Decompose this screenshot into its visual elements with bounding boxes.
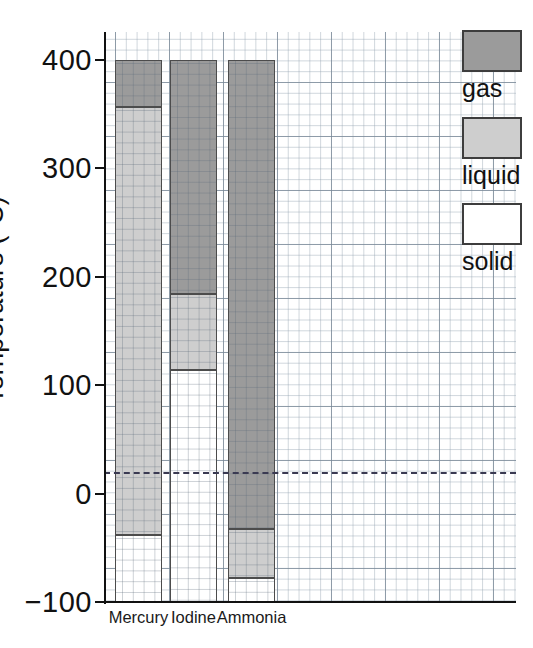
y-tick-label: 200 — [42, 260, 92, 293]
bar-segment-solid — [228, 578, 275, 602]
bar-segment-solid — [170, 370, 217, 602]
legend-swatch-solid — [462, 203, 522, 245]
legend: gas liquid solid — [462, 30, 532, 290]
bar-segment-gas — [228, 60, 275, 529]
y-tick-label: 400 — [42, 44, 92, 77]
bar-mercury — [115, 60, 162, 602]
bar-segment-solid — [115, 535, 162, 602]
y-tick-label: −100 — [25, 586, 92, 619]
bar-segment-liquid — [115, 107, 162, 535]
legend-item-solid: solid — [462, 203, 532, 276]
y-axis-line — [104, 32, 106, 604]
graph-paper-grid — [104, 32, 516, 602]
legend-label-gas: gas — [462, 75, 532, 103]
legend-item-liquid: liquid — [462, 117, 532, 190]
bar-segment-gas — [115, 60, 162, 107]
bar-segment-liquid — [228, 529, 275, 578]
x-label-iodine: Iodine — [171, 608, 216, 627]
legend-label-solid: solid — [462, 248, 532, 276]
x-label-ammonia: Ammonia — [217, 608, 287, 627]
bar-ammonia — [228, 60, 275, 602]
y-tick-label: 100 — [42, 369, 92, 402]
bar-segment-gas — [170, 60, 217, 294]
legend-label-liquid: liquid — [462, 162, 532, 190]
plot-area: −1000100200300400 — [104, 32, 516, 602]
x-label-mercury: Mercury — [109, 608, 169, 627]
legend-item-gas: gas — [462, 30, 532, 103]
chart-canvas: −1000100200300400 Temperature (°C) Mercu… — [0, 0, 533, 648]
x-axis-line — [104, 601, 516, 603]
legend-swatch-liquid — [462, 117, 522, 159]
bar-segment-liquid — [170, 294, 217, 370]
room-temperature-line — [104, 472, 516, 474]
y-tick-label: 300 — [42, 152, 92, 185]
legend-swatch-gas — [462, 30, 522, 72]
y-tick-label: 0 — [75, 477, 92, 510]
bar-iodine — [170, 60, 217, 602]
y-axis-title: Temperature (°C) — [0, 196, 10, 403]
